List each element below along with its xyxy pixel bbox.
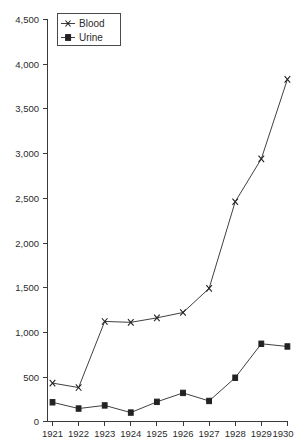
y-tick-label-3500: 3,500 <box>15 103 39 114</box>
y-tick-label-4500: 4,500 <box>15 14 39 25</box>
square-marker-icon <box>66 35 71 41</box>
legend-label-blood: Blood <box>79 18 105 29</box>
data-point-marker <box>259 341 264 346</box>
data-point-marker <box>155 399 160 404</box>
x-tick-label-1924: 1924 <box>120 428 141 439</box>
x-tick-label-1929: 1929 <box>251 428 272 439</box>
y-tick-label-3000: 3,000 <box>15 148 39 159</box>
y-tick-label-500: 500 <box>23 372 39 383</box>
x-tick-label-1921: 1921 <box>42 428 63 439</box>
chart-legend: Blood Urine <box>58 14 121 46</box>
y-tick-label-2500: 2,500 <box>15 193 39 204</box>
chart-container: 4,500 4,000 3,500 3,000 2,500 2,000 1,50… <box>0 0 296 445</box>
x-tick-label-1925: 1925 <box>146 428 167 439</box>
legend-label-urine: Urine <box>79 32 103 43</box>
x-tick-label-1926: 1926 <box>172 428 193 439</box>
x-tick-label-1923: 1923 <box>94 428 115 439</box>
x-tick-label-1927: 1927 <box>199 428 220 439</box>
data-point-marker <box>128 410 133 415</box>
y-tick-label-0: 0 <box>34 416 39 427</box>
x-tick-label-1928: 1928 <box>225 428 246 439</box>
data-point-marker <box>233 375 238 380</box>
chart-background <box>0 0 296 445</box>
data-point-marker <box>285 344 290 349</box>
y-tick-label-4000: 4,000 <box>15 59 39 70</box>
line-chart: 4,500 4,000 3,500 3,000 2,500 2,000 1,50… <box>0 0 296 445</box>
data-point-marker <box>50 400 55 405</box>
y-tick-label-1000: 1,000 <box>15 327 39 338</box>
data-point-marker <box>76 406 81 411</box>
data-point-marker <box>207 398 212 403</box>
data-point-marker <box>102 403 107 408</box>
y-tick-label-2000: 2,000 <box>15 238 39 249</box>
data-point-marker <box>181 390 186 395</box>
x-tick-label-1930: 1930 <box>272 428 293 439</box>
y-tick-label-1500: 1,500 <box>15 282 39 293</box>
x-tick-label-1922: 1922 <box>68 428 89 439</box>
